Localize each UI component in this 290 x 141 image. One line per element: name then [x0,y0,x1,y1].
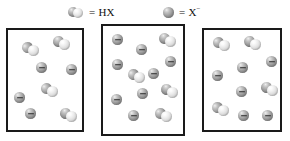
h-sphere [167,87,178,98]
legend-label-x-text: X [188,6,196,18]
legend-equals-x-anion: = [179,6,185,18]
x-sphere [148,68,159,79]
x-sphere [14,92,25,103]
minus-charge-icon [268,61,274,63]
legend-entry-hx: = HX [68,1,115,23]
minus-charge-icon [167,61,173,63]
minus-charge-icon [264,115,270,117]
x-sphere [163,7,174,18]
legend: = HX = X− [0,0,290,24]
x-sphere [136,44,147,55]
x-sphere [266,56,277,67]
x-sphere [165,56,176,67]
legend-entry-x-anion: = X− [163,1,201,23]
minus-charge-icon [238,91,244,93]
x-sphere [262,110,273,121]
x-sphere [238,110,249,121]
minus-charge-icon [38,67,44,69]
h-sphere [165,36,176,47]
h-sphere [59,39,70,50]
x-sphere [66,64,77,75]
minus-charge-icon [138,49,144,51]
particle-box-3 [202,28,282,132]
x-anion-icon [163,5,176,19]
x-sphere [212,70,223,81]
x-sphere [112,59,123,70]
minus-charge-icon [27,113,33,115]
minus-charge-icon [114,64,120,66]
minus-charge-icon [114,39,120,41]
x-sphere [112,34,123,45]
x-sphere [237,62,248,73]
minus-charge-icon [113,99,119,101]
x-sphere [25,108,36,119]
minus-charge-icon [214,75,220,77]
h-sphere [250,39,261,50]
h-sphere [218,105,229,116]
legend-equals-hx: = [89,6,95,18]
particle-box-2 [101,24,185,136]
h-sphere [161,111,172,122]
particle-box-1 [6,28,84,132]
h-sphere [73,8,83,18]
legend-charge-superscript: − [197,5,201,13]
minus-charge-icon [16,97,22,99]
x-sphere [236,86,247,97]
minus-charge-icon [150,73,156,75]
x-sphere [36,62,47,73]
minus-charge-icon [130,115,136,117]
x-sphere [128,110,139,121]
h-sphere [66,111,77,122]
minus-charge-icon [139,93,145,95]
legend-label-x-anion: X− [188,6,200,18]
x-sphere [137,88,148,99]
h-sphere [219,40,230,51]
minus-charge-icon [239,67,245,69]
minus-charge-icon [68,69,74,71]
h-sphere [267,85,278,96]
hx-molecule-icon [68,5,86,19]
legend-label-hx: HX [98,6,114,18]
minus-charge-icon [240,115,246,117]
h-sphere [134,72,145,83]
x-sphere [111,94,122,105]
h-sphere [28,45,39,56]
h-sphere [47,86,58,97]
